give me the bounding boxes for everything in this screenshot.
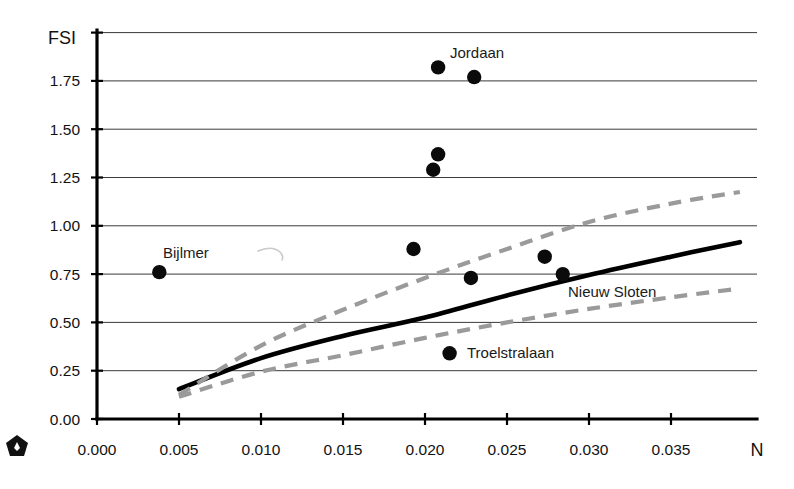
x-tick-label: 0.025 [488, 441, 527, 458]
y-tick-label: 0.00 [50, 411, 81, 428]
data-point[interactable] [152, 265, 166, 279]
y-tick-label: 0.25 [50, 362, 80, 379]
x-tick-label: 0.020 [406, 441, 445, 458]
data-point[interactable] [426, 163, 440, 177]
x-tick-label: 0.030 [570, 441, 609, 458]
y-tick-label: 0.75 [50, 266, 80, 283]
scatter-plot: 0.000.250.500.751.001.251.501.75 0.0000.… [0, 0, 794, 489]
data-point[interactable] [431, 147, 445, 161]
data-point[interactable] [538, 250, 552, 264]
y-tick-label: 1.75 [50, 72, 80, 89]
data-point[interactable] [467, 70, 481, 84]
y-tick-label: 1.50 [50, 121, 81, 138]
point-annotations-group: BijlmerJordaanNieuw SlotenTroelstralaan [163, 44, 656, 361]
x-tick-label: 0.010 [242, 441, 281, 458]
x-tick-label: 0.005 [160, 441, 199, 458]
data-point[interactable] [431, 60, 445, 74]
y-axis-title: FSI [48, 28, 76, 48]
pencil-mark-icon [258, 248, 283, 260]
y-tick-label: 1.25 [50, 169, 80, 186]
y-axis-ticks: 0.000.250.500.751.001.251.501.75 [50, 33, 103, 428]
pentagon-badge-icon [6, 435, 28, 456]
axes-group [97, 30, 757, 419]
point-label: Nieuw Sloten [568, 283, 656, 300]
data-points-group [152, 60, 570, 360]
y-tick-label: 0.50 [50, 314, 81, 331]
chart-container: 0.000.250.500.751.001.251.501.75 0.0000.… [0, 0, 794, 489]
data-point[interactable] [442, 346, 456, 360]
x-tick-label: 0.000 [78, 441, 117, 458]
data-point[interactable] [406, 242, 420, 256]
x-tick-label: 0.015 [324, 441, 363, 458]
point-label: Jordaan [450, 44, 504, 61]
data-point[interactable] [464, 271, 478, 285]
y-tick-label: 1.00 [50, 217, 81, 234]
x-axis-title: N [751, 440, 764, 460]
x-tick-label: 0.035 [652, 441, 691, 458]
point-label: Bijlmer [163, 244, 209, 261]
data-point[interactable] [556, 267, 570, 281]
point-label: Troelstralaan [467, 344, 554, 361]
gridlines-group [97, 33, 757, 371]
